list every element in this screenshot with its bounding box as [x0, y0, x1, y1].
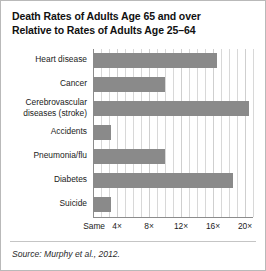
category-label-line: Accidents: [0, 126, 87, 137]
category-label-line: Heart disease: [0, 54, 87, 65]
category-label: Accidents: [0, 126, 87, 137]
category-label: Suicide: [0, 198, 87, 209]
category-label: Diabetes: [0, 174, 87, 185]
category-label-line: Cerebrovascular: [0, 97, 87, 108]
category-label: Cancer: [0, 78, 87, 89]
category-label-line: Suicide: [0, 198, 87, 209]
bar-row: Heart disease: [93, 49, 253, 73]
category-label-line: diseases (stroke): [0, 108, 87, 119]
bar-row: Pneumonia/flu: [93, 145, 253, 169]
x-axis-tick-label: 16×: [206, 221, 220, 231]
bar: [93, 101, 249, 116]
category-label: Pneumonia/flu: [0, 150, 87, 161]
bar-row: Suicide: [93, 193, 253, 217]
source-note: Source: Murphy et al., 2012.: [12, 249, 120, 259]
gridline: [253, 49, 254, 217]
bar: [93, 197, 111, 212]
bar: [93, 173, 233, 188]
bar-row: Cancer: [93, 73, 253, 97]
chart-area: Heart diseaseCancerCerebrovasculardiseas…: [1, 45, 266, 235]
chart-title: Death Rates of Adults Age 65 and over Re…: [1, 1, 265, 37]
bar: [93, 53, 217, 68]
x-axis-tick-label: Same: [83, 221, 105, 231]
x-axis-tick-label: 12×: [174, 221, 188, 231]
chart-title-line1: Death Rates of Adults Age 65 and over: [12, 10, 255, 24]
bar-row: Diabetes: [93, 169, 253, 193]
bar: [93, 77, 165, 92]
source-divider: [10, 241, 256, 242]
x-axis-tick-label: 4×: [112, 221, 122, 231]
bar-rows: Heart diseaseCancerCerebrovasculardiseas…: [93, 49, 253, 217]
bar-row: Accidents: [93, 121, 253, 145]
x-axis-tick-labels: Same4×8×12×16×20×: [93, 221, 263, 235]
x-axis-tick-label: 20×: [238, 221, 252, 231]
bar-row: Cerebrovasculardiseases (stroke): [93, 97, 253, 121]
chart-title-line2: Relative to Rates of Adults Age 25–64: [12, 24, 255, 38]
plot-region: Heart diseaseCancerCerebrovasculardiseas…: [93, 49, 253, 218]
category-label-line: Cancer: [0, 78, 87, 89]
bar: [93, 125, 111, 140]
figure-panel: Death Rates of Adults Age 65 and over Re…: [0, 0, 266, 271]
category-label: Heart disease: [0, 54, 87, 65]
bar: [93, 149, 165, 164]
category-label: Cerebrovasculardiseases (stroke): [0, 97, 87, 118]
x-axis-tick-label: 8×: [144, 221, 154, 231]
category-label-line: Diabetes: [0, 174, 87, 185]
category-label-line: Pneumonia/flu: [0, 150, 87, 161]
